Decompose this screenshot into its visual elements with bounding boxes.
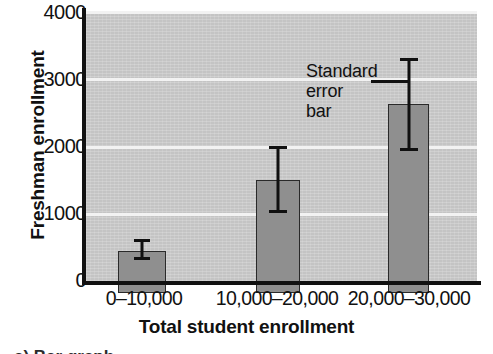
x-axis-line — [82, 281, 481, 285]
gridline-4000 — [86, 11, 477, 14]
error-bar-cap-bottom — [134, 257, 150, 260]
standard-error-bar-annotation: Standard error bar — [306, 61, 377, 121]
error-bar-cap-top — [400, 58, 418, 61]
y-tick-label-3000: 3000 — [16, 69, 86, 89]
y-tick-label-1000: 1000 — [16, 203, 86, 223]
error-bar-cap-top — [134, 239, 150, 242]
error-bar-cap-bottom — [400, 148, 418, 151]
error-bar-category-1 — [132, 239, 152, 260]
plot-area — [86, 11, 477, 281]
y-tick-label-4000: 4000 — [16, 2, 86, 22]
error-bar-category-3 — [398, 58, 420, 151]
error-bar-cap-bottom — [269, 210, 287, 213]
error-bar-cap-top — [269, 146, 287, 149]
error-bar-stem — [408, 58, 411, 151]
annotation-line-1: Standard — [306, 61, 377, 81]
y-axis-line — [82, 8, 86, 284]
error-bar-stem — [277, 146, 280, 213]
x-axis-title: Total student enrollment — [0, 316, 493, 338]
annotation-line-3: bar — [306, 101, 377, 121]
bar-chart-figure: Freshman enrollment 4000 3000 2000 1000 … — [0, 0, 493, 354]
error-bar-category-2 — [267, 146, 289, 213]
x-tick-label-3: 20,000–30,000 — [326, 287, 492, 310]
cropped-caption-sliver: a) Bar graph — [14, 347, 114, 354]
y-tick-label-2000: 2000 — [16, 136, 86, 156]
annotation-line-2: error — [306, 81, 377, 101]
